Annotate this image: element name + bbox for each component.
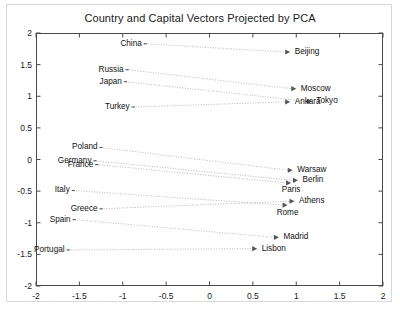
country-label: China: [120, 40, 141, 48]
capital-label: Madrid: [283, 233, 308, 241]
country-label: Spain: [50, 215, 71, 223]
country-label: Greece: [71, 205, 98, 213]
y-tick-label: -1.5: [6, 249, 32, 259]
x-tick-label: 2: [381, 291, 386, 301]
y-tick-label: 0: [6, 155, 32, 165]
pair-arrows: [66, 44, 311, 252]
capital-label: Athens: [299, 197, 325, 205]
country-label: Turkey: [105, 103, 130, 111]
capital-label: Ankara: [295, 98, 321, 106]
x-tick-label: 1.5: [334, 291, 346, 301]
capital-label: Lisbon: [262, 245, 286, 253]
y-tick-label: -0.5: [6, 186, 32, 196]
capital-label: Moscow: [301, 85, 331, 93]
capital-label: Berlin: [302, 176, 323, 184]
x-tick-label: 0.5: [247, 291, 259, 301]
country-label: Russia: [99, 66, 124, 74]
country-label: Poland: [72, 143, 98, 151]
capital-label: Warsaw: [297, 166, 326, 174]
capital-label: Rome: [277, 209, 299, 217]
y-tick-label: 1.5: [6, 60, 32, 70]
x-tick-label: 0: [207, 291, 212, 301]
country-label: Italy: [55, 186, 70, 194]
capital-label: Beijing: [295, 48, 320, 56]
y-tick-label: -2: [6, 281, 32, 291]
country-label: Japan: [100, 78, 122, 86]
y-tick-label: -1: [6, 218, 32, 228]
x-tick-label: -0.5: [159, 291, 174, 301]
country-label: France: [68, 160, 93, 168]
y-tick-label: 0.5: [6, 123, 32, 133]
country-label: Portugal: [34, 246, 65, 254]
x-tick-label: -2: [32, 291, 40, 301]
x-tick-label: -1: [119, 291, 127, 301]
x-tick-label: -1.5: [72, 291, 87, 301]
x-tick-label: 1: [294, 291, 299, 301]
y-tick-label: 2: [6, 28, 32, 38]
pca-scatter-figure: Country and Capital Vectors Projected by…: [0, 0, 400, 312]
capital-label: Paris: [282, 186, 301, 194]
y-tick-label: 1: [6, 91, 32, 101]
